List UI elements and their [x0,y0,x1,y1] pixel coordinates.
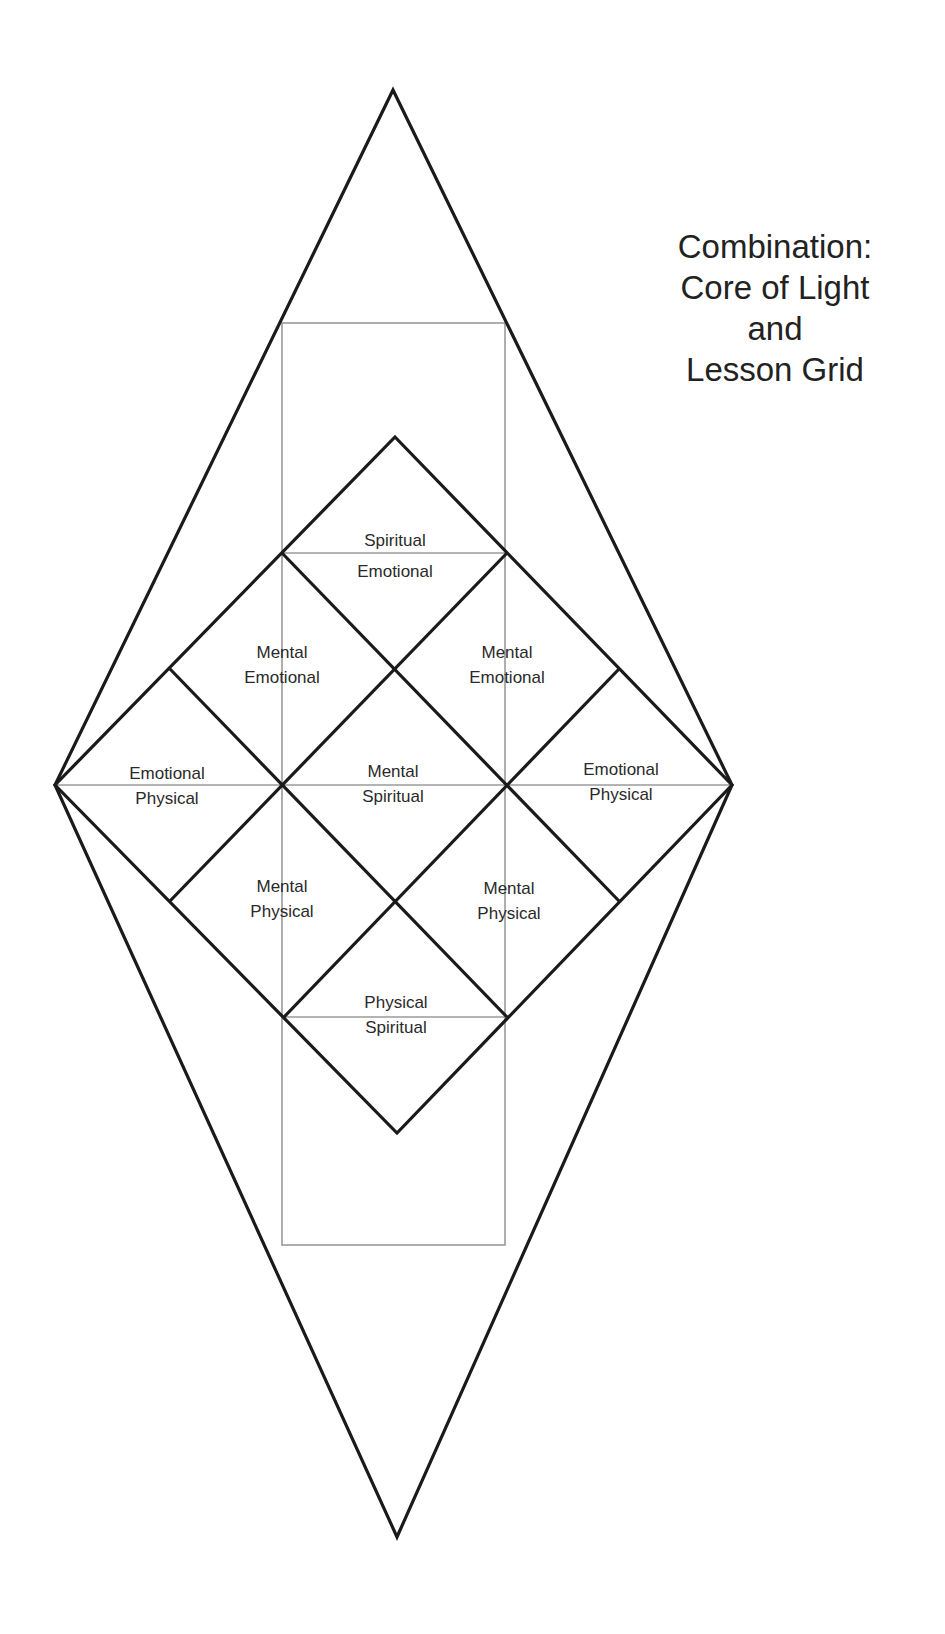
diagram-title: Combination: Core of Light and Lesson Gr… [630,226,920,390]
title-line-3: and [630,308,920,349]
cell-label-bottom: Physical Spiritual [326,990,466,1040]
cell-label-right: Emotional Physical [551,757,691,807]
cell-label-upper-left: Mental Emotional [212,640,352,690]
title-line-4: Lesson Grid [630,349,920,390]
title-line-2: Core of Light [630,267,920,308]
cell-label-upper-right: Mental Emotional [437,640,577,690]
title-line-1: Combination: [630,226,920,267]
cell-label-center: Mental Spiritual [323,759,463,809]
cell-label-lower-right: Mental Physical [439,876,579,926]
cell-label-lower-left: Mental Physical [212,874,352,924]
cell-label-left: Emotional Physical [97,761,237,811]
cell-label-top: Spiritual Emotional [325,528,465,584]
